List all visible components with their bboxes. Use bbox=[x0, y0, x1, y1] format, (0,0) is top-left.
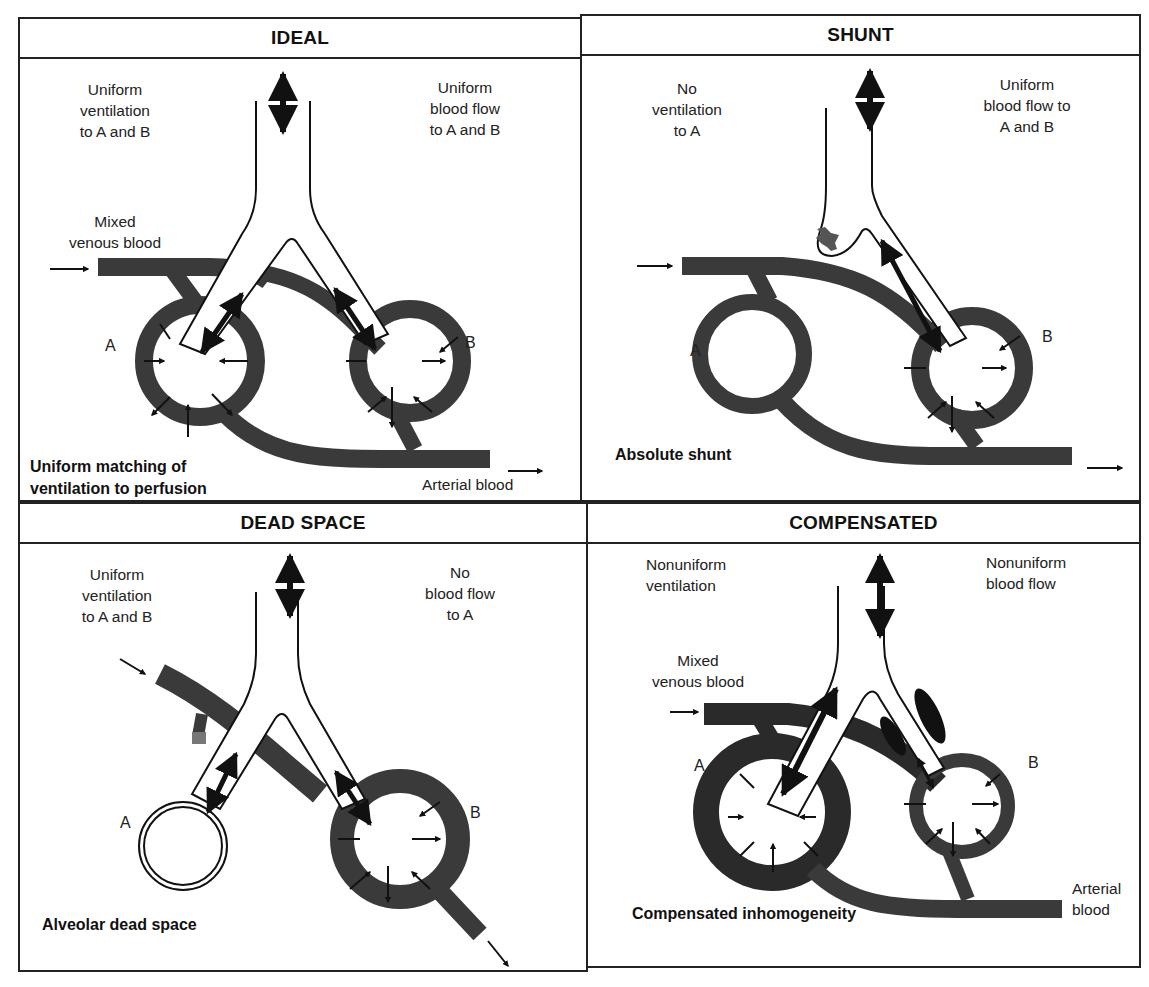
clot-icon bbox=[192, 732, 206, 744]
alveolus-a-label: A bbox=[690, 342, 701, 360]
blood-flow-label: No blood flow to A bbox=[410, 562, 510, 625]
inflow-arrow-icon bbox=[120, 659, 145, 674]
alveolus-a-label: A bbox=[694, 757, 705, 775]
panel-caption: Absolute shunt bbox=[615, 444, 731, 466]
panel-caption: Uniform matching of ventilation to perfu… bbox=[30, 456, 207, 500]
ventilation-label: No ventilation to A bbox=[637, 78, 737, 141]
blood-flow-label: Nonuniform blood flow bbox=[986, 552, 1066, 594]
alveolus-b-label: B bbox=[465, 334, 476, 352]
panel-ideal: IDEAL bbox=[18, 17, 582, 502]
airway bbox=[180, 101, 388, 354]
blood-flow-label: Uniform blood flow to A and B bbox=[967, 74, 1087, 137]
panel-caption: Compensated inhomogeneity bbox=[632, 903, 856, 925]
blood-flow-label: Uniform blood flow to A and B bbox=[410, 77, 520, 140]
outflow-arrow-icon bbox=[488, 941, 508, 966]
ventilation-label: Uniform ventilation to A and B bbox=[62, 564, 172, 627]
alveolus-a bbox=[139, 802, 227, 890]
alveolus-b-label: B bbox=[1042, 328, 1053, 346]
alveolus-b-label: B bbox=[470, 804, 481, 822]
panel-compensated: COMPENSATED bbox=[586, 502, 1141, 968]
panel-dead-space: DEAD SPACE Uniform ventilation bbox=[18, 502, 588, 972]
arterial-blood-label: Arterial blood bbox=[1072, 878, 1121, 920]
ventilation-label: Uniform ventilation to A and B bbox=[60, 79, 170, 142]
arterial-blood-label: Arterial blood bbox=[422, 474, 513, 495]
alveolus-a-label: A bbox=[120, 814, 131, 832]
mixed-venous-label: Mixed venous blood bbox=[643, 650, 753, 692]
panel-shunt: SHUNT No ventilation to A bbox=[580, 14, 1141, 502]
panel-caption: Alveolar dead space bbox=[42, 914, 197, 936]
ventilation-label: Nonuniform ventilation bbox=[646, 554, 726, 596]
alveolus-b-label: B bbox=[1028, 754, 1039, 772]
mixed-venous-label: Mixed venous blood bbox=[60, 211, 170, 253]
alveolus-a-label: A bbox=[105, 337, 116, 355]
